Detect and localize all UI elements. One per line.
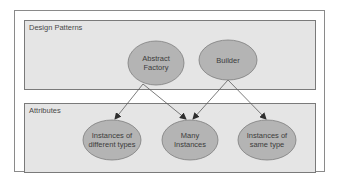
edge-abstract-factory-to-instances-different-types bbox=[115, 84, 143, 119]
diagram-canvas bbox=[0, 0, 339, 189]
node-label-instances-different-types: Instances of different types bbox=[82, 120, 142, 160]
edge-builder-to-instances-same-type bbox=[228, 80, 266, 119]
edge-builder-to-many-instances bbox=[193, 80, 228, 119]
node-label-builder: Builder bbox=[199, 40, 257, 80]
edge-abstract-factory-to-many-instances bbox=[143, 84, 186, 119]
node-label-instances-same-type: Instances of same type bbox=[237, 120, 297, 160]
node-label-abstract-factory: Abstract Factory bbox=[128, 43, 184, 83]
node-label-many-instances: Many Instances bbox=[162, 120, 218, 160]
